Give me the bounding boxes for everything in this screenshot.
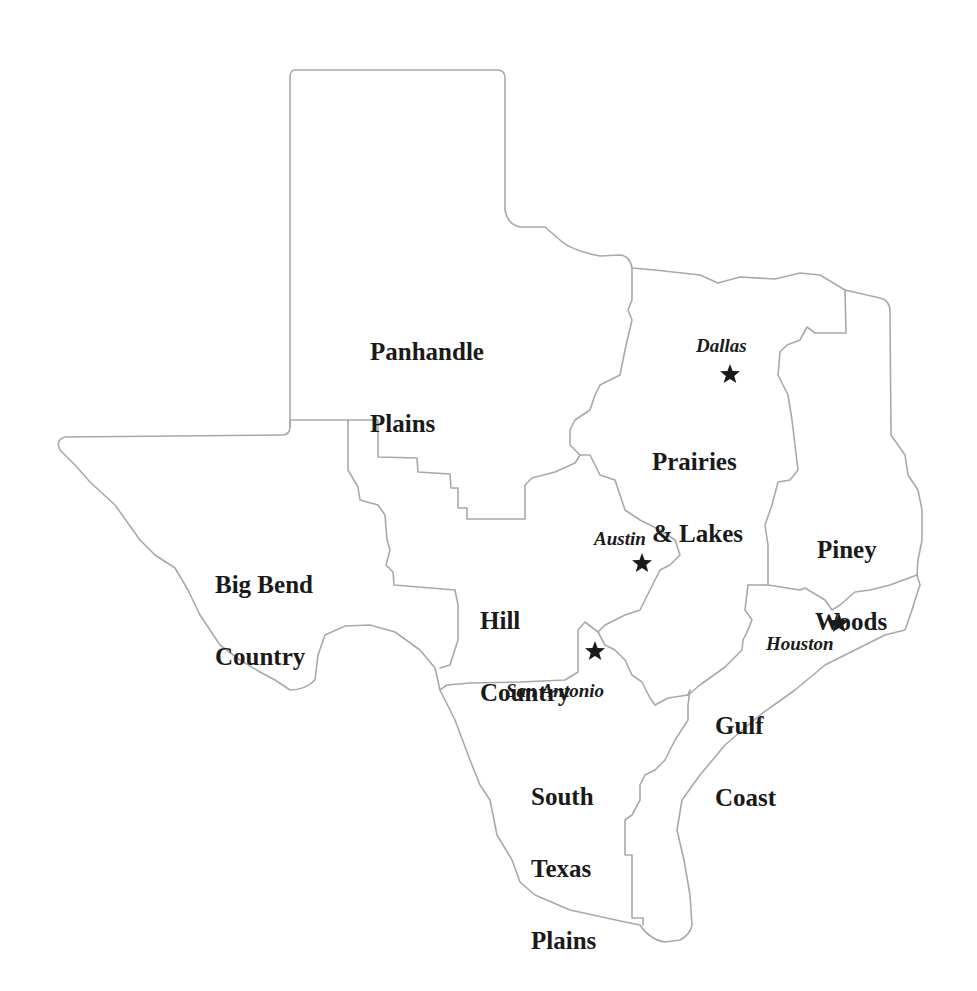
state-outline bbox=[58, 70, 922, 942]
region-label-line: Gulf bbox=[715, 714, 776, 738]
texas-regions-map: Panhandle Plains Prairies & Lakes Piney … bbox=[0, 0, 977, 991]
region-gulf-coast: Gulf Coast bbox=[715, 666, 776, 858]
region-label-line: Texas bbox=[531, 857, 596, 881]
region-label-line: Country bbox=[215, 645, 313, 669]
region-label-line: Woods bbox=[815, 610, 887, 634]
star-icon bbox=[584, 640, 606, 662]
region-label-line: Plains bbox=[370, 412, 484, 436]
star-icon bbox=[828, 612, 850, 634]
city-label-san-antonio: San Antonio bbox=[506, 680, 604, 702]
region-south-texas-plains: South Texas Plains bbox=[531, 737, 596, 991]
region-label-line: Coast bbox=[715, 786, 776, 810]
city-label-dallas: Dallas bbox=[696, 335, 747, 357]
region-label-line: Piney bbox=[815, 538, 887, 562]
region-hill-country: Hill Country bbox=[480, 561, 570, 753]
region-label-line: Big Bend bbox=[215, 573, 313, 597]
star-icon bbox=[631, 552, 653, 574]
region-label-line: Hill bbox=[480, 609, 570, 633]
region-prairies-lakes: Prairies & Lakes bbox=[652, 402, 743, 594]
city-label-houston: Houston bbox=[766, 633, 834, 655]
border-panhandle-prairies bbox=[570, 268, 632, 455]
region-label-line: South bbox=[531, 785, 596, 809]
star-icon bbox=[719, 363, 741, 385]
region-label-line: Plains bbox=[531, 929, 596, 953]
region-panhandle-plains: Panhandle Plains bbox=[370, 292, 484, 484]
region-label-line: & Lakes bbox=[652, 522, 743, 546]
region-label-line: Panhandle bbox=[370, 340, 484, 364]
region-label-line: Prairies bbox=[652, 450, 743, 474]
region-big-bend-country: Big Bend Country bbox=[215, 525, 313, 717]
city-label-austin: Austin bbox=[594, 528, 646, 550]
